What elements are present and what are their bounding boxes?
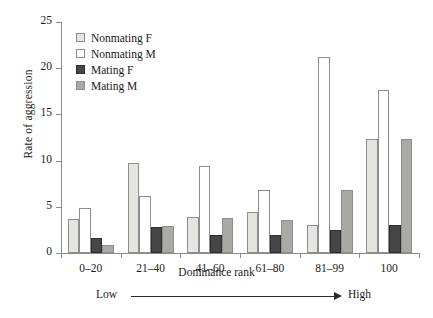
rank-arrow-line [131,296,336,297]
legend-item: Mating F [76,62,156,77]
legend-swatch-icon [76,33,85,42]
x-axis-tick [121,253,122,258]
chart-legend: Nonmating FNonmating MMating FMating M [76,30,156,94]
y-axis-title: Rate of aggression [22,34,34,194]
y-axis-tick-label: 0 [46,245,52,257]
bar-nonmating-m-41-60 [199,166,211,253]
bar-nonmating-m-61-80 [258,190,270,253]
bar-mating-f-41-60 [210,235,222,253]
legend-label: Nonmating F [91,32,152,44]
bar-mating-m-21-40 [162,226,174,253]
rank-high-label: High [348,288,371,300]
x-axis-tick [240,253,241,258]
bar-mating-m-81-99 [341,190,353,253]
bar-mating-m-61-80 [281,220,293,253]
bar-nonmating-m-0-20 [79,208,91,253]
bar-nonmating-m-81-99 [318,57,330,253]
y-axis-tick: 25 [56,22,61,23]
legend-item: Nonmating M [76,46,156,61]
legend-item: Nonmating F [76,30,156,45]
x-axis-tick [419,253,420,258]
bar-nonmating-m-100 [378,90,390,253]
bar-nonmating-f-100 [366,139,378,253]
y-axis-tick: 20 [56,68,61,69]
bar-chart-figure: Rate of aggression 0510152025 0–2021–404… [0,0,433,318]
bar-mating-f-0-20 [91,238,103,253]
x-axis-tick [61,253,62,258]
legend-label: Mating M [91,80,137,92]
bar-nonmating-f-21-40 [128,163,140,253]
legend-swatch-icon [76,81,85,90]
y-axis-tick-label: 25 [41,14,53,26]
y-axis-tick-label: 20 [41,60,53,72]
y-axis-tick-label: 15 [41,106,53,118]
x-axis-tick [359,253,360,258]
legend-item: Mating M [76,78,156,93]
legend-swatch-icon [76,49,85,58]
rank-direction-annotation: Low High [0,288,433,306]
y-axis-tick-label: 10 [41,153,53,165]
x-axis-tick [180,253,181,258]
bar-mating-m-100 [401,139,413,253]
bar-mating-m-41-60 [222,218,234,253]
y-axis-tick: 10 [56,161,61,162]
bar-nonmating-f-81-99 [307,225,319,253]
rank-low-label: Low [96,288,117,300]
legend-label: Mating F [91,64,134,76]
bar-mating-f-100 [389,225,401,253]
bar-nonmating-f-61-80 [247,212,259,253]
bar-nonmating-f-0-20 [68,219,80,253]
x-axis-tick [300,253,301,258]
bar-mating-f-21-40 [151,227,163,253]
bar-nonmating-f-41-60 [187,217,199,253]
y-axis-tick: 15 [56,114,61,115]
bar-mating-m-0-20 [102,245,114,253]
y-axis-tick: 5 [56,207,61,208]
x-axis-title: Dominance rank [0,266,433,278]
legend-label: Nonmating M [91,48,156,60]
y-axis-tick-label: 5 [46,199,52,211]
legend-swatch-icon [76,65,85,74]
bar-mating-f-81-99 [330,230,342,253]
y-axis-line [61,22,62,253]
bar-nonmating-m-21-40 [139,196,151,253]
bar-mating-f-61-80 [270,235,282,253]
rank-arrow-head-icon [334,292,342,300]
